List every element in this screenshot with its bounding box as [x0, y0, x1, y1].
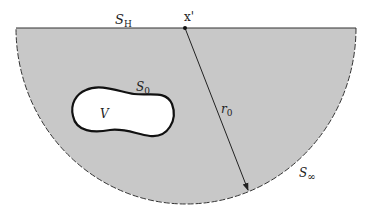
label-s-h: SH — [115, 12, 132, 29]
half-space-diagram: SH x' S0 V r0 S∞ — [0, 0, 368, 214]
label-volume: V — [100, 107, 110, 121]
source-point-dot — [183, 26, 187, 30]
label-source-point: x' — [184, 10, 194, 24]
label-s-infinity: S∞ — [299, 166, 316, 182]
inclusion-s0-boundary — [72, 87, 174, 136]
